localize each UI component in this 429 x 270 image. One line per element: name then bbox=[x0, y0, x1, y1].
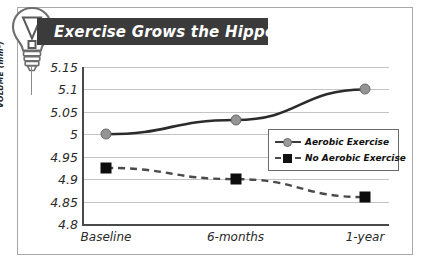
data-point-marker bbox=[101, 162, 112, 173]
page-title: Exercise Grows the Hippocampus bbox=[37, 23, 342, 41]
legend-marker-square-icon bbox=[275, 152, 301, 164]
legend-label-no-aerobic: No Aerobic Exercise bbox=[301, 153, 406, 163]
data-point-marker bbox=[360, 192, 371, 203]
figure-root: Exercise Grows the Hippocampus VOLUME (m… bbox=[0, 0, 429, 270]
data-point-marker bbox=[230, 174, 241, 185]
legend-marker-circle-icon bbox=[275, 136, 301, 148]
legend-label-aerobic: Aerobic Exercise bbox=[301, 137, 389, 147]
legend-item-aerobic: Aerobic Exercise bbox=[275, 134, 398, 150]
y-axis-tick-label: 5.1 bbox=[32, 82, 78, 97]
y-axis-tick-label: 5.15 bbox=[32, 60, 78, 75]
y-axis-tick-label: 4.9 bbox=[32, 172, 78, 187]
data-point-marker bbox=[230, 114, 241, 125]
data-point-marker bbox=[360, 84, 371, 95]
title-banner: Exercise Grows the Hippocampus bbox=[37, 18, 268, 45]
y-axis-tick-label: 4.85 bbox=[32, 194, 78, 209]
y-axis-tick-label: 5 bbox=[32, 127, 78, 142]
legend-item-no-aerobic: No Aerobic Exercise bbox=[275, 150, 398, 166]
x-axis-tick-label: 1-year bbox=[346, 230, 385, 244]
y-axis-title: VOLUME (mm³) bbox=[0, 41, 5, 108]
y-axis-tick-label: 4.8 bbox=[32, 217, 78, 232]
series-line bbox=[106, 89, 365, 134]
y-axis-tick-labels: 5.155.15.0554.954.94.854.8 bbox=[30, 67, 78, 225]
data-point-marker bbox=[101, 129, 112, 140]
chart-legend: Aerobic Exercise No Aerobic Exercise bbox=[268, 129, 399, 171]
x-axis-tick-label: Baseline bbox=[81, 230, 132, 244]
y-axis-tick-label: 5.05 bbox=[32, 104, 78, 119]
y-axis-tick-label: 4.95 bbox=[32, 149, 78, 164]
x-axis-tick-label: 6-months bbox=[207, 230, 264, 244]
